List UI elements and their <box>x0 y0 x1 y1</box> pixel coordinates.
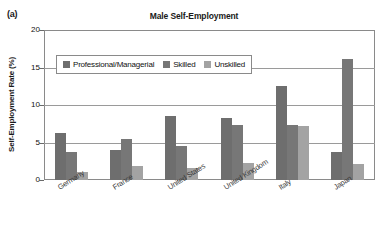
y-tick-label: 10 <box>12 100 40 109</box>
bar-group <box>55 30 88 180</box>
bars-layer <box>44 30 375 180</box>
legend-swatch-icon <box>63 61 70 68</box>
legend-swatch-icon <box>163 61 170 68</box>
bar <box>276 86 287 180</box>
legend-label: Skilled <box>173 60 195 69</box>
bar <box>287 125 298 180</box>
y-tick-label: 20 <box>12 25 40 34</box>
legend-item: Skilled <box>163 60 195 69</box>
bar <box>165 116 176 181</box>
chart-figure: (a) Male Self-Employment Self-Employment… <box>0 0 388 233</box>
bar-group <box>221 30 254 180</box>
bar-group <box>276 30 309 180</box>
bar <box>342 59 353 181</box>
bar-group <box>165 30 198 180</box>
y-tick-mark <box>39 180 44 181</box>
bar <box>331 152 342 181</box>
legend-item: Unskilled <box>204 60 245 69</box>
y-tick-label: 5 <box>12 138 40 147</box>
legend-item: Professional/Managerial <box>63 60 154 69</box>
chart-title: Male Self-Employment <box>0 11 388 21</box>
legend-label: Unskilled <box>214 60 245 69</box>
bar <box>298 126 309 180</box>
bar <box>353 164 364 180</box>
bar <box>110 150 121 180</box>
bar <box>221 118 232 180</box>
chart-legend: Professional/ManagerialSkilledUnskilled <box>56 55 252 74</box>
bar-group <box>331 30 364 180</box>
legend-swatch-icon <box>204 61 211 68</box>
bar <box>55 133 66 180</box>
legend-label: Professional/Managerial <box>73 60 154 69</box>
bar-group <box>110 30 143 180</box>
y-tick-label: 0 <box>12 175 40 184</box>
y-tick-label: 15 <box>12 63 40 72</box>
